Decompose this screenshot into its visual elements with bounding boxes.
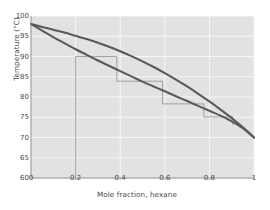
txy-phase-diagram: 6065707580859095100 00.20.40.60.81 Tempe… (0, 0, 270, 210)
x-tick-label: 0.4 (105, 174, 135, 182)
x-tick-label: 1 (239, 174, 269, 182)
x-axis-tick-labels: 00.20.40.60.81 (0, 174, 270, 188)
y-tick-label: 70 (3, 134, 29, 142)
x-tick-label: 0.8 (194, 174, 224, 182)
x-axis-title: Mole fraction, hexane (30, 190, 244, 199)
y-axis-title: Temperature (°C) (10, 0, 24, 104)
y-tick-label: 65 (3, 154, 29, 162)
x-tick-label: 0.6 (150, 174, 180, 182)
x-tick-label: 0.2 (61, 174, 91, 182)
x-tick-label: 0 (16, 174, 46, 182)
y-tick-label: 75 (3, 113, 29, 121)
